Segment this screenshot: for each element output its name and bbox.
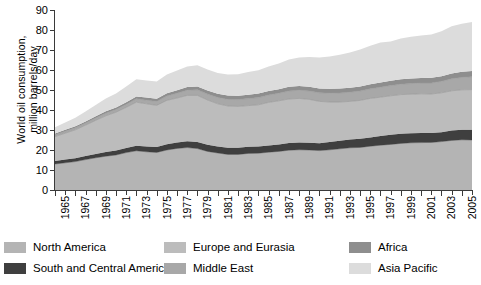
- legend-item[interactable]: Africa: [349, 241, 407, 253]
- y-tick-label: 80: [36, 24, 48, 36]
- legend-label: Middle East: [193, 262, 253, 274]
- y-tick-label: 50: [36, 84, 48, 96]
- x-tick-mark: [370, 190, 371, 195]
- x-tick-mark: [350, 190, 351, 195]
- legend-item[interactable]: North America: [4, 241, 106, 253]
- x-axis-tick-labels: 1965196719691971197319751977197919811983…: [55, 196, 472, 236]
- plot-area: [55, 10, 472, 190]
- x-tick-label: 1967: [79, 196, 91, 219]
- x-tick-label: 1975: [161, 196, 173, 219]
- legend-item[interactable]: Middle East: [164, 262, 253, 274]
- x-tick-label: 2001: [425, 196, 437, 219]
- legend-swatch-icon: [4, 242, 26, 253]
- x-tick-label: 1969: [100, 196, 112, 219]
- y-tick-label: 40: [36, 104, 48, 116]
- legend-swatch-icon: [164, 242, 186, 253]
- y-tick-label: 60: [36, 64, 48, 76]
- x-tick-label: 1971: [120, 196, 132, 219]
- stacked-area-svg: [55, 10, 472, 190]
- legend-swatch-icon: [4, 263, 26, 274]
- x-tick-mark: [187, 190, 188, 195]
- legend-label: Africa: [378, 241, 407, 253]
- legend-row: South and Central AmericaMiddle EastAsia…: [4, 262, 478, 281]
- legend-swatch-icon: [164, 263, 186, 274]
- x-tick-label: 1993: [344, 196, 356, 219]
- y-tick-label: 20: [36, 144, 48, 156]
- x-tick-mark: [86, 190, 87, 195]
- x-tick-mark: [330, 190, 331, 195]
- x-tick-mark: [208, 190, 209, 195]
- legend-label: Asia Pacific: [378, 262, 437, 274]
- x-tick-label: 1977: [181, 196, 193, 219]
- x-tick-mark: [431, 190, 432, 195]
- x-tick-mark: [106, 190, 107, 195]
- legend-label: North America: [33, 241, 106, 253]
- legend-swatch-icon: [349, 242, 371, 253]
- x-tick-label: 1987: [283, 196, 295, 219]
- x-tick-label: 1965: [59, 196, 71, 219]
- legend-row: North AmericaEurope and EurasiaAfrica: [4, 241, 478, 260]
- y-axis-tick-labels: 0102030405060708090: [0, 10, 48, 190]
- legend-label: South and Central America: [33, 262, 170, 274]
- x-tick-mark: [228, 190, 229, 195]
- legend-label: Europe and Eurasia: [193, 241, 295, 253]
- x-tick-mark: [126, 190, 127, 195]
- x-tick-mark: [167, 190, 168, 195]
- x-tick-label: 2003: [445, 196, 457, 219]
- y-tick-label: 30: [36, 124, 48, 136]
- x-tick-label: 1973: [140, 196, 152, 219]
- legend-item[interactable]: Asia Pacific: [349, 262, 437, 274]
- x-tick-mark: [248, 190, 249, 195]
- x-tick-mark: [452, 190, 453, 195]
- legend-swatch-icon: [349, 263, 371, 274]
- x-tick-mark: [391, 190, 392, 195]
- x-tick-label: 1997: [384, 196, 396, 219]
- x-tick-label: 2005: [466, 196, 478, 219]
- x-tick-label: 1983: [242, 196, 254, 219]
- y-tick-label: 10: [36, 164, 48, 176]
- legend-item[interactable]: Europe and Eurasia: [164, 241, 295, 253]
- x-tick-label: 1989: [303, 196, 315, 219]
- legend-item[interactable]: South and Central America: [4, 262, 170, 274]
- x-tick-label: 1979: [201, 196, 213, 219]
- x-tick-label: 1995: [364, 196, 376, 219]
- x-tick-mark: [269, 190, 270, 195]
- x-tick-mark: [472, 190, 473, 195]
- x-tick-label: 1999: [405, 196, 417, 219]
- x-tick-label: 1981: [222, 196, 234, 219]
- x-tick-mark: [309, 190, 310, 195]
- x-tick-mark: [147, 190, 148, 195]
- chart-figure: World oil consumption, million barrels/d…: [0, 0, 481, 285]
- y-tick-label: 70: [36, 44, 48, 56]
- x-tick-label: 1991: [323, 196, 335, 219]
- x-tick-mark: [65, 190, 66, 195]
- chart-legend: North AmericaEurope and EurasiaAfricaSou…: [4, 241, 478, 283]
- x-tick-mark: [411, 190, 412, 195]
- x-tick-mark: [289, 190, 290, 195]
- x-tick-label: 1985: [262, 196, 274, 219]
- y-tick-label: 0: [42, 184, 48, 196]
- y-tick-label: 90: [36, 4, 48, 16]
